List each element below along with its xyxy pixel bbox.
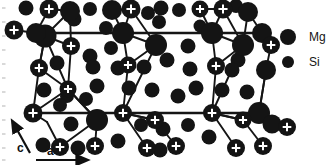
mg-atom-marked <box>120 57 137 74</box>
si-atom <box>64 117 79 132</box>
legend-swatch-mg <box>280 29 296 45</box>
mg-atom-marked <box>114 104 132 122</box>
si-atom <box>50 56 65 71</box>
legend-item-mg: Mg <box>280 29 326 45</box>
si-atom <box>225 63 240 78</box>
mg-atom <box>145 34 167 56</box>
si-atom <box>111 134 126 149</box>
mg-atom-marked <box>167 137 185 155</box>
si-atom <box>90 79 105 94</box>
mg-atom-marked <box>60 81 77 98</box>
mg-atom-marked <box>5 21 24 40</box>
si-atom <box>137 60 152 75</box>
si-atom <box>154 1 169 16</box>
si-atom <box>104 41 118 55</box>
mg-atom-marked <box>24 104 43 123</box>
mg-atom-marked <box>207 57 225 75</box>
si-atom <box>171 89 186 104</box>
crystal-structure-figure: c a MgSi <box>0 0 329 165</box>
si-atom <box>160 53 175 68</box>
mg-atom-marked <box>262 36 280 54</box>
bond <box>123 45 156 113</box>
si-atom <box>181 118 195 132</box>
si-atom <box>79 92 93 106</box>
si-atom <box>19 1 34 16</box>
mg-atom-marked <box>86 137 104 155</box>
mg-atom <box>201 22 223 44</box>
mg-atom <box>112 22 134 44</box>
si-atom <box>145 83 160 98</box>
si-atom <box>122 81 137 96</box>
mg-atom-marked <box>254 137 272 155</box>
mg-atom <box>232 34 254 56</box>
legend: MgSi <box>280 29 326 69</box>
mg-atom-marked <box>235 112 252 129</box>
si-atom <box>215 83 230 98</box>
a-axis-label: a <box>47 144 54 158</box>
c-axis-label: c <box>17 141 24 155</box>
si-atom <box>99 21 113 35</box>
mg-atom <box>86 109 108 131</box>
legend-swatch-si <box>282 56 294 68</box>
si-atom <box>172 3 186 17</box>
si-atom <box>53 98 67 112</box>
mg-atom-marked <box>146 111 164 129</box>
mg-atom-marked <box>138 139 156 157</box>
si-atom <box>71 141 86 156</box>
mg-atom-marked <box>62 37 80 55</box>
legend-item-si: Si <box>282 55 320 69</box>
si-atom <box>181 39 196 54</box>
structure-canvas: c a MgSi <box>0 0 329 165</box>
legend-label-mg: Mg <box>309 30 326 44</box>
si-atom <box>83 2 97 16</box>
mg-atom <box>256 60 276 80</box>
mg-atom-marked <box>227 139 245 157</box>
mg-atom-marked <box>278 118 296 136</box>
mg-atom-marked <box>203 104 221 122</box>
si-atom <box>37 83 52 98</box>
si-atom <box>189 81 204 96</box>
mg-atom-marked <box>51 138 69 156</box>
mg-atom-marked <box>40 0 59 19</box>
mg-atom-marked <box>30 59 48 77</box>
si-atom <box>240 85 255 100</box>
mg-atom-marked <box>122 0 141 19</box>
si-atom <box>134 118 148 132</box>
mg-atom <box>102 0 122 20</box>
mg-atom-marked <box>214 0 233 19</box>
si-atom <box>202 130 217 145</box>
mg-atom-marked <box>192 1 209 18</box>
si-atom <box>86 60 101 75</box>
legend-label-si: Si <box>309 55 320 69</box>
mg-atom <box>238 2 258 22</box>
mg-atom <box>60 1 80 21</box>
si-atom <box>141 6 155 20</box>
mg-atom <box>26 23 46 43</box>
si-atom <box>183 62 198 77</box>
si-atom <box>152 15 166 29</box>
